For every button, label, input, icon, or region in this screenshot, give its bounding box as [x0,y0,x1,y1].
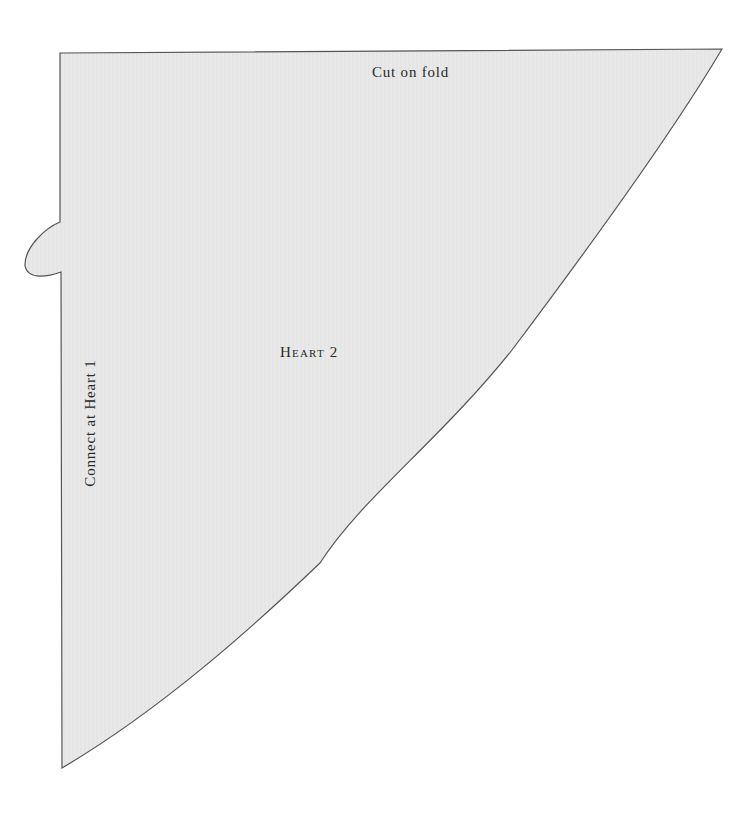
piece-name-label: Heart 2 [280,344,339,361]
cut-on-fold-label: Cut on fold [372,64,449,81]
pattern-canvas: Cut on fold Heart 2 Connect at Heart 1 [0,0,748,818]
pattern-piece-shape [0,0,748,818]
heart-piece-outline [25,49,722,768]
connect-instruction-label: Connect at Heart 1 [82,359,99,486]
